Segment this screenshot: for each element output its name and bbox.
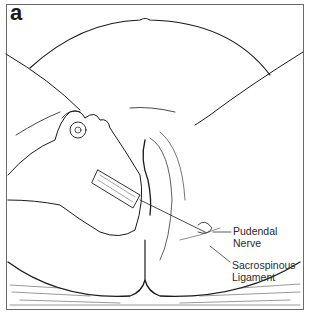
label-pudendal-nerve: Pudendal Nerve (233, 225, 277, 249)
abdomen-outline (30, 19, 270, 76)
label-sacrospinous-ligament: Sacrospinous Ligament (232, 259, 296, 283)
syringe-barrel (92, 170, 140, 208)
right-thigh-outline (195, 52, 303, 125)
panel-label: a (10, 2, 22, 24)
left-thigh-outline (6, 54, 80, 110)
leader-sacrospinous (210, 246, 230, 262)
syringe-needle (140, 200, 205, 232)
